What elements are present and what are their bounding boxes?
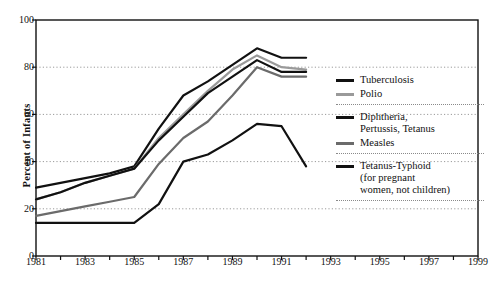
series-line-3 <box>36 67 306 216</box>
legend-separator <box>336 200 484 201</box>
x-axis-tick-labels: 1981198319851987198919911993199519971999 <box>0 256 490 272</box>
x-tick-label: 1999 <box>458 256 490 267</box>
legend-group: Diphtheria,Pertussis, TetanusMeasles <box>336 111 484 149</box>
legend-entry[interactable]: Diphtheria,Pertussis, Tetanus <box>336 111 484 135</box>
data-series-lines <box>36 48 306 223</box>
legend-entry[interactable]: Measles <box>336 137 484 149</box>
legend-group: TuberculosisPolio <box>336 74 484 100</box>
legend-group: Tetanus-Typhoid(for pregnantwomen, not c… <box>336 160 484 196</box>
legend-entry[interactable]: Tuberculosis <box>336 74 484 86</box>
x-tick-label: 1995 <box>360 256 400 267</box>
x-tick-label: 1981 <box>16 256 56 267</box>
chart-legend: TuberculosisPolioDiphtheria,Pertussis, T… <box>336 74 484 207</box>
immunization-coverage-line-chart: Percent of Infants 020406080100 19811983… <box>0 0 490 295</box>
legend-entry[interactable]: Polio <box>336 88 484 100</box>
legend-swatch-icon <box>336 93 354 96</box>
legend-swatch-icon <box>336 116 354 119</box>
legend-separator <box>336 104 484 105</box>
x-tick-label: 1993 <box>311 256 351 267</box>
x-tick-label: 1997 <box>409 256 449 267</box>
legend-entry[interactable]: Tetanus-Typhoid(for pregnantwomen, not c… <box>336 160 484 196</box>
legend-swatch-icon <box>336 165 354 168</box>
legend-separator <box>336 153 484 154</box>
legend-swatch-icon <box>336 142 354 145</box>
legend-label: Tuberculosis <box>360 74 414 86</box>
legend-label: Tetanus-Typhoid(for pregnantwomen, not c… <box>360 160 450 196</box>
x-tick-label: 1991 <box>262 256 302 267</box>
series-line-0 <box>36 48 306 187</box>
x-tick-label: 1987 <box>163 256 203 267</box>
series-line-2 <box>36 60 306 199</box>
legend-label: Polio <box>360 88 382 100</box>
x-tick-label: 1989 <box>212 256 252 267</box>
legend-label: Diphtheria,Pertussis, Tetanus <box>360 111 435 135</box>
legend-label: Measles <box>360 137 394 149</box>
x-tick-label: 1985 <box>114 256 154 267</box>
x-tick-label: 1983 <box>65 256 105 267</box>
legend-swatch-icon <box>336 79 354 82</box>
